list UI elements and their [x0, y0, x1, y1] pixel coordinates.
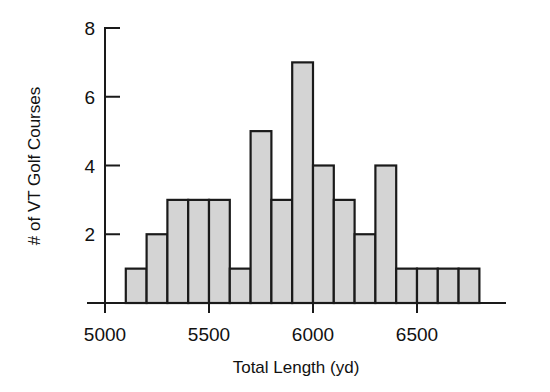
histogram-bar: [147, 234, 168, 303]
x-tick-labels-group: 5000550060006500: [84, 324, 438, 345]
x-axis-tick-label: 5500: [188, 324, 230, 345]
histogram-bar: [313, 166, 334, 304]
histogram-figure: 2468 5000550060006500 Total Length (yd) …: [0, 0, 550, 392]
histogram-bar: [167, 200, 188, 303]
histogram-bar: [355, 234, 376, 303]
x-axis-tick-label: 6000: [292, 324, 334, 345]
histogram-bar: [188, 200, 209, 303]
x-axis-title: Total Length (yd): [233, 358, 360, 377]
histogram-bar: [396, 269, 417, 303]
histogram-bar: [334, 200, 355, 303]
histogram-bar: [209, 200, 230, 303]
x-axis-tick-label: 6500: [396, 324, 438, 345]
histogram-bar: [459, 269, 480, 303]
y-axis-tick-label: 6: [84, 87, 95, 108]
y-axis-tick-label: 4: [84, 156, 95, 177]
y-axis-title: # of VT Golf Courses: [25, 87, 44, 245]
histogram-bar: [271, 200, 292, 303]
histogram-bar: [251, 131, 272, 303]
y-ticks-group: [105, 28, 120, 234]
histogram-bar: [230, 269, 251, 303]
bars-group: [126, 62, 480, 303]
y-tick-labels-group: 2468: [84, 18, 95, 245]
y-axis-tick-label: 2: [84, 224, 95, 245]
y-axis-tick-label: 8: [84, 18, 95, 39]
histogram-plot: 2468 5000550060006500 Total Length (yd) …: [0, 0, 550, 392]
histogram-bar: [292, 62, 313, 303]
x-axis-tick-label: 5000: [84, 324, 126, 345]
histogram-bar: [126, 269, 147, 303]
histogram-bar: [438, 269, 459, 303]
histogram-bar: [375, 166, 396, 304]
histogram-bar: [417, 269, 438, 303]
